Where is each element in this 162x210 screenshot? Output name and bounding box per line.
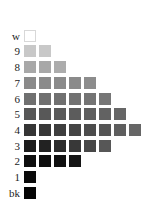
color-swatch [99,93,111,105]
row-label: 6 [0,92,20,106]
color-swatch [39,45,51,57]
row-label: 1 [0,170,20,184]
value-row-9: 9 [0,44,162,58]
color-swatch [54,140,66,152]
row-label: w [0,29,20,43]
color-swatch [114,124,126,136]
row-label: 4 [0,123,20,137]
color-swatch [39,155,51,167]
color-swatch [84,108,96,120]
color-swatch [54,124,66,136]
value-row-2: 2 [0,154,162,168]
color-swatch [39,77,51,89]
color-swatch [39,61,51,73]
color-swatch [24,108,36,120]
color-swatch [39,140,51,152]
row-label: 9 [0,44,20,58]
color-swatch [24,155,36,167]
row-label: 5 [0,107,20,121]
color-swatch [129,124,141,136]
color-swatch [99,140,111,152]
value-row-7: 7 [0,76,162,90]
color-swatch [24,140,36,152]
color-swatch [99,108,111,120]
color-swatch [69,155,81,167]
color-swatch [24,45,36,57]
value-row-5: 5 [0,107,162,121]
color-swatch [69,140,81,152]
color-swatch [54,155,66,167]
color-swatch [84,140,96,152]
color-swatch [69,108,81,120]
color-swatch [69,77,81,89]
row-label: 2 [0,154,20,168]
color-swatch [54,93,66,105]
row-label: 8 [0,60,20,74]
color-swatch [24,77,36,89]
munsell-value-chart: w987654321bk [0,0,162,210]
value-row-4: 4 [0,123,162,137]
color-swatch [84,77,96,89]
color-swatch [69,93,81,105]
color-swatch [24,61,36,73]
row-label: 3 [0,139,20,153]
color-swatch [24,93,36,105]
color-swatch [54,61,66,73]
color-swatch [99,124,111,136]
value-row-1: 1 [0,170,162,184]
color-swatch [39,124,51,136]
color-swatch [54,108,66,120]
color-swatch [24,124,36,136]
color-swatch [54,77,66,89]
value-row-bk: bk [0,186,162,200]
value-row-8: 8 [0,60,162,74]
color-swatch [69,124,81,136]
color-swatch [39,93,51,105]
color-swatch [24,30,36,42]
row-label: bk [0,186,20,200]
color-swatch [84,124,96,136]
color-swatch [39,108,51,120]
value-row-3: 3 [0,139,162,153]
row-label: 7 [0,76,20,90]
value-row-6: 6 [0,92,162,106]
color-swatch [24,187,36,199]
value-row-w: w [0,29,162,43]
color-swatch [24,171,36,183]
color-swatch [114,108,126,120]
color-swatch [84,93,96,105]
